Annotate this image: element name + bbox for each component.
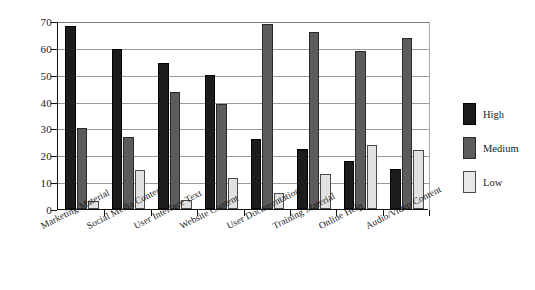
legend-label: High [483, 109, 504, 120]
y-tick-label: 60 [12, 44, 52, 55]
bar [355, 51, 366, 209]
chart-legend: HighMediumLow [463, 103, 529, 205]
legend-swatch-high [463, 103, 476, 125]
bar [344, 161, 355, 209]
frame-right-edge [429, 22, 430, 210]
bar [251, 139, 262, 209]
bar [309, 32, 320, 209]
y-tick-label: 70 [12, 17, 52, 28]
y-tick-mark [51, 210, 57, 211]
bar [112, 49, 123, 209]
y-tick-label: 30 [12, 124, 52, 135]
bar [170, 92, 181, 209]
bar [297, 149, 308, 209]
y-tick-label: 50 [12, 71, 52, 82]
legend-label: Low [483, 177, 502, 188]
y-tick-label: 40 [12, 98, 52, 109]
legend-label: Medium [483, 143, 519, 154]
legend-item[interactable]: Low [463, 171, 529, 205]
bar [205, 75, 216, 209]
bar-chart: 010203040506070 Marketing MaterialSocial… [0, 0, 535, 290]
plot-inner [58, 22, 428, 209]
legend-swatch-medium [463, 137, 476, 159]
plot-area [57, 22, 428, 210]
y-tick-label: 0 [12, 205, 52, 216]
bar [216, 104, 227, 209]
legend-swatch-low [463, 171, 476, 193]
gridline [58, 22, 429, 23]
bar [367, 145, 378, 209]
y-tick-label: 20 [12, 151, 52, 162]
x-tick-mark [429, 210, 430, 216]
legend-item[interactable]: High [463, 103, 529, 137]
bar [262, 24, 273, 209]
bar [402, 38, 413, 209]
y-tick-label: 10 [12, 178, 52, 189]
bar [65, 26, 76, 209]
legend-item[interactable]: Medium [463, 137, 529, 171]
